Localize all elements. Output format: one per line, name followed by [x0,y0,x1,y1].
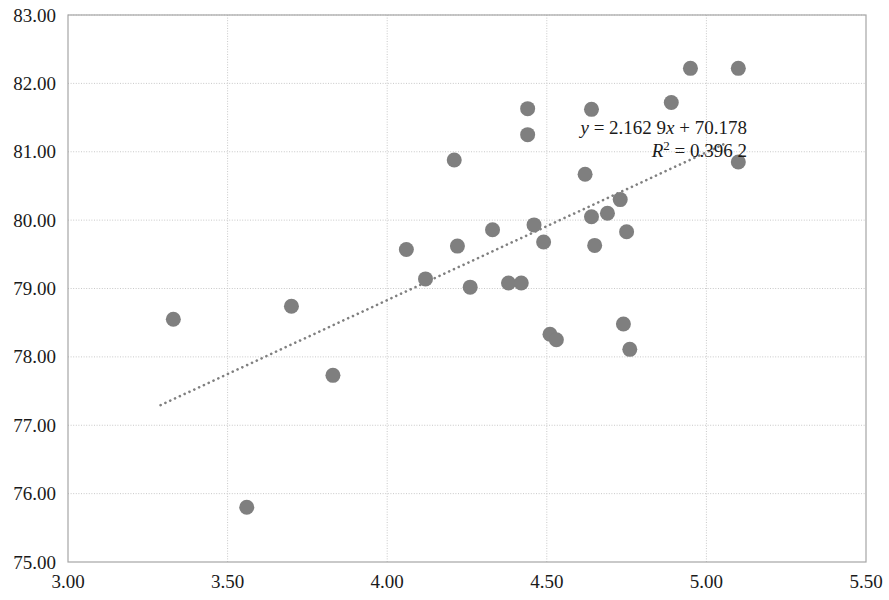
y-axis-tick-label: 79.00 [13,278,56,299]
regression-annotation: y = 2.162 9x + 70.178R2 = 0.396 2 [578,117,747,161]
data-point [731,61,746,76]
data-point [239,500,254,515]
chart-canvas: 75.0076.0077.0078.0079.0080.0081.0082.00… [0,0,889,600]
y-axis-tick-label: 82.00 [13,73,56,94]
data-point [325,368,340,383]
trendline [161,143,726,405]
x-axis-tick-label: 5.00 [690,571,723,592]
data-point [584,209,599,224]
data-point [587,238,602,253]
data-point [600,206,615,221]
y-axis-tick-label: 78.00 [13,346,56,367]
data-point [520,127,535,142]
x-axis-tick-label: 4.50 [530,571,563,592]
data-point [399,242,414,257]
y-axis-tick-label: 77.00 [13,415,56,436]
y-axis-tick-label: 81.00 [13,141,56,162]
data-point [619,224,634,239]
y-axis-tick-label: 83.00 [13,5,56,26]
trendline-path [161,143,726,405]
x-axis-tick-label: 4.00 [371,571,404,592]
y-axis-tick-label: 80.00 [13,210,56,231]
data-point [501,276,516,291]
data-point [485,222,500,237]
regression-equation-label: y = 2.162 9x + 70.178 [578,117,747,138]
x-axis-tick-label: 5.50 [849,571,882,592]
data-point [536,235,551,250]
x-axis-tick-label: 3.50 [211,571,244,592]
y-axis-tick-label: 75.00 [13,552,56,573]
scatter-plot-figure: 75.0076.0077.0078.0079.0080.0081.0082.00… [0,0,889,600]
y-axis-tick-label: 76.00 [13,483,56,504]
data-point [578,167,593,182]
data-point [520,101,535,116]
data-point [613,192,628,207]
data-point [166,312,181,327]
r-squared-label: R2 = 0.396 2 [651,138,747,161]
data-point [683,61,698,76]
x-axis-tick-labels: 3.003.504.004.505.005.50 [51,571,882,592]
data-point [284,299,299,314]
data-point [549,332,564,347]
y-axis-tick-labels: 75.0076.0077.0078.0079.0080.0081.0082.00… [13,5,56,573]
data-point [664,95,679,110]
x-axis-tick-label: 3.00 [51,571,84,592]
data-point [622,342,637,357]
data-point [514,276,529,291]
data-point [450,239,465,254]
data-point [527,217,542,232]
data-point [447,152,462,167]
data-point [418,271,433,286]
data-point [584,102,599,117]
data-point [616,317,631,332]
data-point [463,280,478,295]
